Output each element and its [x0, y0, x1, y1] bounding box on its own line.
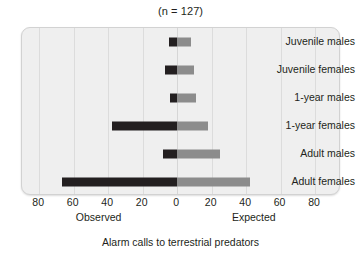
- x-tick-label: 20: [205, 196, 217, 208]
- bar-observed: [169, 38, 178, 47]
- bar-expected: [177, 178, 249, 187]
- x-tick-label: 60: [67, 196, 79, 208]
- x-tick-label: 80: [308, 196, 320, 208]
- x-axis: Observed Expected 80604020020406080: [21, 196, 340, 212]
- category-label: 1-year males: [294, 83, 355, 111]
- category-label: Adult males: [300, 139, 355, 167]
- category-axis-labels: Juvenile malesJuvenile females1-year mal…: [243, 27, 358, 195]
- x-tick-label: 20: [136, 196, 148, 208]
- category-label: Adult females: [291, 167, 355, 195]
- x-tick-label: 40: [101, 196, 113, 208]
- chart-figure: (n = 127) Juvenile malesJuvenile females…: [0, 0, 361, 257]
- bar-expected: [177, 150, 220, 159]
- bar-observed: [165, 66, 177, 75]
- bar-observed: [112, 122, 178, 131]
- category-label: 1-year females: [286, 111, 355, 139]
- x-axis-caption: Alarm calls to terrestrial predators: [0, 236, 361, 248]
- bar-expected: [177, 66, 194, 75]
- category-label: Juvenile males: [286, 27, 355, 55]
- bar-observed: [170, 94, 177, 103]
- bar-observed: [62, 178, 178, 187]
- x-tick-label: 40: [239, 196, 251, 208]
- axis-side-label-expected: Expected: [232, 211, 276, 223]
- x-tick-label: 60: [274, 196, 286, 208]
- x-tick-label: 80: [32, 196, 44, 208]
- bar-observed: [163, 150, 177, 159]
- chart-title: (n = 127): [0, 5, 361, 17]
- bar-expected: [177, 122, 208, 131]
- bar-expected: [177, 94, 196, 103]
- category-label: Juvenile females: [277, 55, 355, 83]
- axis-side-label-observed: Observed: [76, 211, 122, 223]
- x-tick-label: 0: [173, 196, 179, 208]
- bar-expected: [177, 38, 191, 47]
